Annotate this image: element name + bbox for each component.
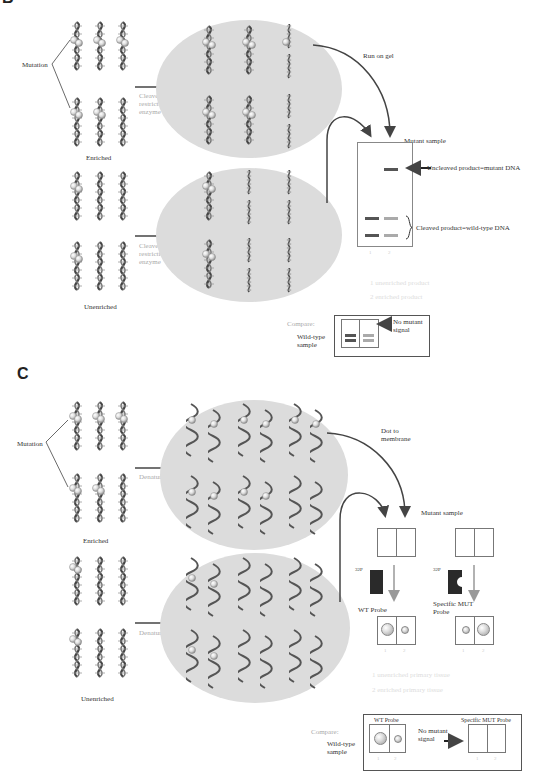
wt-lane1-signal-large (381, 623, 394, 636)
wt-lane2-signal-small (401, 626, 409, 634)
compare-c-sample: Wild-type sample (327, 740, 360, 756)
compare-c-wt-result (369, 724, 406, 753)
wt-lane-1-label: 1 (384, 648, 387, 653)
mut-lane-1-label: 1 (462, 648, 465, 653)
membrane-blank-wt (377, 528, 416, 557)
cleaved-upper-band-lane1 (365, 217, 379, 220)
compare-c-wt-probe: WT Probe (374, 716, 399, 724)
probe-32p-right: 32P (433, 566, 441, 574)
cleaved-label: Cleaved product=wild-type DNA (416, 224, 510, 232)
wt-probe-result (377, 616, 416, 645)
no-mutant-arrow-c (444, 737, 466, 747)
cleaved-lower-band-lane2 (384, 234, 398, 237)
cleaved-lower-band-lane1 (365, 234, 379, 237)
cleaved-upper-band-lane2 (384, 217, 398, 220)
unenriched-label-c: Unenriched (81, 695, 114, 703)
gel-lane-2-label: 2 (388, 250, 391, 255)
mut-lane2-signal-large (477, 623, 490, 636)
wt-probe-arrow (390, 565, 398, 605)
legend-c-1: 1 unenriched primary tissue (372, 671, 450, 679)
uncleaved-band-lane2 (384, 168, 398, 171)
compare-b-gel (341, 319, 379, 348)
compare-mut-lane-1: 1 (476, 756, 479, 761)
mutant-sample-label-c: Mutant sample (421, 509, 463, 517)
mut-probe-icon (448, 570, 462, 594)
mut-probe-arrow (470, 565, 478, 605)
probe-32p-left: 32P (355, 566, 363, 574)
compare-b-title: Compare: (287, 320, 315, 328)
wt-probe-label: WT Probe (358, 606, 387, 614)
compare-c-mut-probe: Specific MUT Probe (461, 716, 511, 724)
wt-probe-icon (370, 570, 383, 594)
legend-b-1: 1 unenriched product (370, 279, 429, 287)
unenriched-label: Unenriched (84, 303, 117, 311)
compare-b-note: No mutant signal (393, 318, 427, 334)
cleaved-bracket (404, 215, 414, 241)
mut-probe-label: Specific MUT Probe (433, 600, 477, 616)
legend-c-2: 2 enriched primary tissue (372, 686, 443, 694)
compare-mut-lane-2: 2 (494, 756, 497, 761)
legend-b-2: 2 enriched product (370, 293, 422, 301)
wt-lane-2-label: 2 (403, 648, 406, 653)
run-on-gel-arrow (0, 0, 534, 260)
mut-lane-2-label: 2 (482, 648, 485, 653)
compare-c-box: WT Probe Specific MUT Probe No mutant si… (363, 714, 522, 771)
run-on-gel-label: Run on gel (363, 52, 394, 60)
compare-c-title: Compare: (311, 728, 339, 736)
membrane-blank-mut (455, 528, 494, 557)
compare-b-box: No mutant signal (334, 315, 430, 357)
gel-lane-1-label: 1 (369, 250, 372, 255)
mut-probe-result (455, 616, 494, 645)
compare-wt-lane-1: 1 (377, 756, 380, 761)
dot-to-membrane-label: Dot to membrane (381, 427, 421, 443)
compare-wt-lane-2: 2 (394, 756, 397, 761)
no-mutant-arrow-b (377, 320, 393, 330)
compare-c-mut-result (468, 724, 506, 753)
mut-lane1-signal-small (462, 626, 470, 634)
uncleaved-label: Uncleaved product=mutant DNA (427, 164, 520, 172)
compare-b-sample: Wild-type sample (297, 333, 327, 349)
